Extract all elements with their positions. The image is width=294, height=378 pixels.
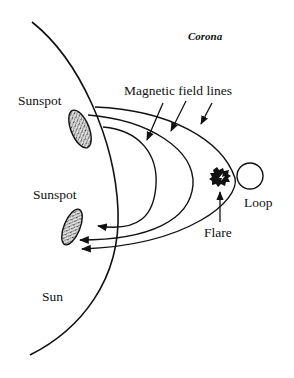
loop-label: Loop xyxy=(244,196,273,210)
sunspot-top-label: Sunspot xyxy=(18,94,62,108)
flare-burst-icon xyxy=(209,167,231,187)
flare-label: Flare xyxy=(204,226,232,240)
sunspot-bottom-shape xyxy=(57,206,86,247)
pointer-arrow-3 xyxy=(201,103,212,124)
cropped-caption-strip xyxy=(0,372,294,378)
loop-circle xyxy=(237,163,263,189)
field-line-middle xyxy=(80,115,193,240)
magnetic-field-lines-label: Magnetic field lines xyxy=(124,84,232,98)
sun-label: Sun xyxy=(42,290,63,304)
pointer-arrow-1 xyxy=(147,103,163,140)
corona-label: Corona xyxy=(188,31,222,42)
sunspot-bottom-label: Sunspot xyxy=(33,188,77,202)
sunspot-top-shape xyxy=(64,107,96,151)
